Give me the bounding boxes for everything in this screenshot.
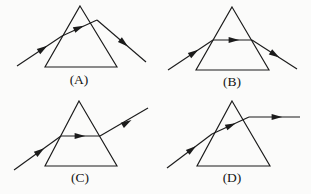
ray-direction-arrow-icon — [188, 47, 200, 58]
ray-direction-arrow-icon — [37, 43, 49, 54]
prism-triangle — [197, 101, 270, 166]
ray-direction-arrow-icon — [34, 146, 46, 157]
panel-d: (D) — [167, 101, 300, 185]
panel-c: (C) — [14, 101, 148, 185]
ray-direction-arrow-icon — [272, 114, 283, 120]
prism-triangle — [45, 6, 117, 67]
prism-triangle — [45, 101, 117, 166]
panel-b: (B) — [168, 7, 297, 89]
ray-direction-arrow-icon — [186, 143, 198, 154]
panel-a: (A) — [17, 6, 146, 87]
panel-c-label: (C) — [71, 170, 89, 185]
ray-direction-arrow-icon — [225, 120, 237, 130]
panel-a-label: (A) — [70, 72, 89, 87]
ray-direction-arrow-icon — [75, 133, 86, 139]
panel-d-label: (D) — [223, 170, 242, 185]
ray-direction-arrow-icon — [229, 37, 240, 43]
ray-direction-arrow-icon — [121, 117, 133, 128]
ray-direction-arrow-icon — [269, 49, 281, 60]
ray-direction-arrow-icon — [73, 23, 85, 33]
figure-container: (A)(B)(C)(D) — [0, 0, 311, 194]
panel-b-label: (B) — [223, 74, 241, 89]
prism-ray-diagram: (A)(B)(C)(D) — [0, 0, 311, 194]
